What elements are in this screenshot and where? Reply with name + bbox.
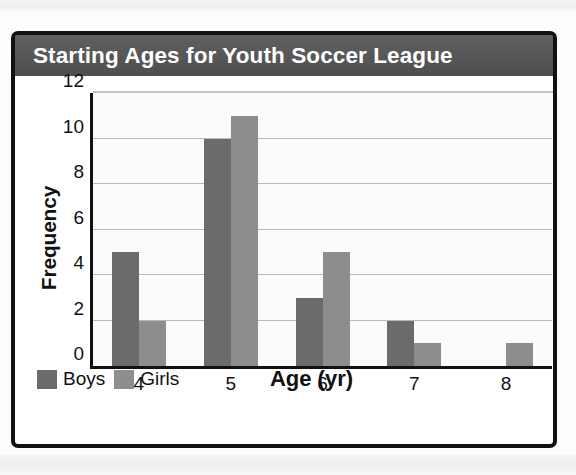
bar-boys-age-6 <box>296 298 323 366</box>
y-tick-label: 4 <box>73 252 84 274</box>
bar-boys-age-5 <box>204 139 231 367</box>
bar-girls-age-5 <box>231 116 258 366</box>
gridline <box>93 91 557 93</box>
legend-item-boys: Boys <box>37 368 105 390</box>
bar-girls-age-6 <box>323 252 350 366</box>
plot-area: 024681012 45678 <box>90 93 552 369</box>
chart-footer: Age (yr) BoysGirls <box>15 366 553 406</box>
scan-band-bottom <box>0 455 576 475</box>
chart-title-bar: Starting Ages for Youth Soccer League <box>15 35 553 76</box>
bar-boys-age-4 <box>112 252 139 366</box>
legend-swatch-girls <box>114 370 134 389</box>
scan-band-top <box>0 0 576 12</box>
y-tick-label: 8 <box>73 161 84 183</box>
y-tick-label: 6 <box>73 206 84 228</box>
legend-swatch-boys <box>37 370 57 389</box>
chart-legend: BoysGirls <box>37 368 179 390</box>
y-tick-label: 10 <box>63 115 84 137</box>
legend-label-girls: Girls <box>140 368 179 390</box>
legend-label-boys: Boys <box>63 368 105 390</box>
bar-boys-age-7 <box>387 321 414 367</box>
y-tick-label: 2 <box>73 297 84 319</box>
y-axis-title: Frequency <box>37 168 61 308</box>
y-tick-label: 0 <box>73 343 84 365</box>
chart-figure: Starting Ages for Youth Soccer League Fr… <box>11 31 557 448</box>
gridline <box>93 183 552 184</box>
gridline <box>93 229 552 230</box>
gridline <box>93 138 552 139</box>
bar-girls-age-4 <box>139 321 166 367</box>
plot-inner: 024681012 45678 <box>93 93 552 366</box>
bar-girls-age-7 <box>414 343 441 366</box>
chart-title: Starting Ages for Youth Soccer League <box>33 43 453 69</box>
bar-girls-age-8 <box>506 343 533 366</box>
y-tick-label: 12 <box>63 70 84 92</box>
legend-item-girls: Girls <box>114 368 179 390</box>
